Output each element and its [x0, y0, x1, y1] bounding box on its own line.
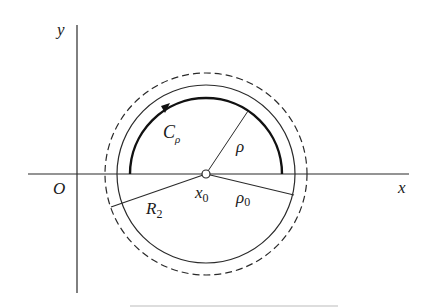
contour-label: Cρ [163, 122, 180, 145]
contour-diagram: y x O Cρ ρ x0 ρ0 R2 [0, 0, 431, 308]
x-axis-label: x [397, 178, 406, 197]
origin-label: O [53, 179, 65, 198]
rho-label: ρ [235, 137, 244, 156]
contour-arc [130, 98, 282, 174]
y-axis-label: y [55, 20, 65, 39]
rho0-label: ρ0 [235, 188, 250, 209]
center-point [202, 170, 210, 178]
rho0-radius [206, 174, 294, 195]
center-label: x0 [194, 183, 209, 205]
R2-label: R2 [145, 199, 162, 221]
R2-radius [111, 174, 206, 207]
